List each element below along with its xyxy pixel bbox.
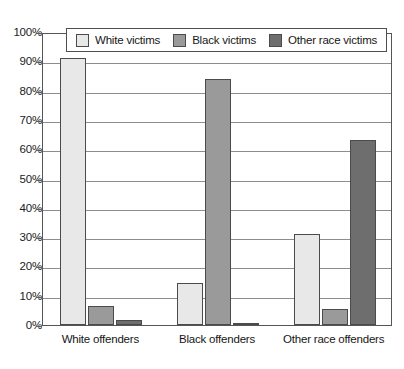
bar (88, 306, 114, 325)
y-axis-tick-mark (36, 33, 41, 34)
legend-swatch-icon (269, 34, 282, 47)
legend-item: Black victims (173, 34, 256, 47)
x-axis-category-label: Other race offenders (254, 333, 404, 345)
legend-label: Other race victims (288, 34, 377, 46)
legend-swatch-icon (173, 34, 186, 47)
plot-area (42, 33, 392, 326)
y-axis-tick-mark (36, 62, 41, 63)
y-axis-tick-mark (36, 238, 41, 239)
bar (294, 234, 320, 325)
legend: White victimsBlack victimsOther race vic… (66, 28, 387, 52)
gridline (43, 63, 391, 64)
bar (116, 320, 142, 325)
y-axis-tick-mark (36, 267, 41, 268)
y-axis-tick-mark (36, 209, 41, 210)
bar (233, 323, 259, 325)
legend-item: Other race victims (269, 34, 377, 47)
bar-chart: 0%10%20%30%40%50%60%70%80%90%100% White … (0, 0, 404, 369)
bar (322, 309, 348, 325)
bar (205, 79, 231, 325)
legend-label: White victims (95, 34, 160, 46)
bar (350, 140, 376, 325)
y-axis-tick-mark (36, 297, 41, 298)
y-axis-tick-mark (36, 326, 41, 327)
y-axis-tick-mark (36, 150, 41, 151)
y-axis-tick-mark (36, 121, 41, 122)
legend-label: Black victims (192, 34, 256, 46)
legend-item: White victims (76, 34, 160, 47)
y-axis-tick-mark (36, 180, 41, 181)
bar (177, 283, 203, 325)
bar (60, 58, 86, 325)
y-axis-tick-mark (36, 92, 41, 93)
legend-swatch-icon (76, 34, 89, 47)
